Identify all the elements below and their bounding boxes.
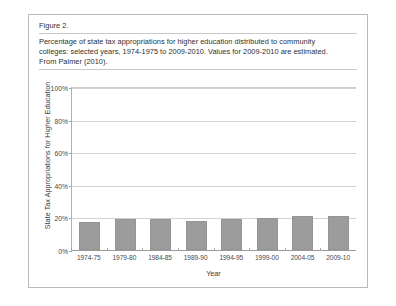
figure-number: Figure 2.	[39, 21, 357, 31]
bar-slot	[108, 88, 144, 250]
x-tick: 2009-10	[320, 251, 356, 261]
bar[interactable]	[328, 216, 349, 250]
bar-slot	[143, 88, 179, 250]
bar-series	[72, 88, 356, 250]
x-tick-mark	[285, 248, 286, 251]
x-tick-mark	[178, 248, 179, 251]
y-tick-label: 20%	[54, 215, 68, 222]
x-tick: 1979-80	[107, 251, 143, 261]
bar-slot	[285, 88, 321, 250]
x-tick-label: 1984-85	[142, 254, 178, 261]
x-tick-label: 1974-75	[71, 254, 107, 261]
x-tick-label: 1999-00	[249, 254, 285, 261]
x-tick: 1999-00	[249, 251, 285, 261]
caption-text: Percentage of state tax appropriations f…	[39, 37, 357, 68]
y-tick-label: 100%	[51, 85, 68, 92]
bar-slot	[179, 88, 215, 250]
x-tick: 1984-85	[142, 251, 178, 261]
x-tick-mark	[214, 248, 215, 251]
caption-divider-top	[39, 33, 357, 34]
y-tick-label: 80%	[54, 117, 68, 124]
plot-frame: 0%20%40%60%80%100%	[71, 87, 356, 251]
x-tick-label: 2009-10	[320, 254, 356, 261]
bar[interactable]	[115, 219, 136, 250]
plot-area: 0%20%40%60%80%100%	[71, 87, 356, 251]
x-tick-label: 2004-05	[285, 254, 321, 261]
x-tick: 1989-90	[178, 251, 214, 261]
figure-caption: Figure 2. Percentage of state tax approp…	[39, 21, 357, 68]
x-tick-label: 1989-90	[178, 254, 214, 261]
x-tick-mark	[142, 248, 143, 251]
y-tick-label: 0%	[58, 248, 68, 255]
bar[interactable]	[186, 221, 207, 250]
caption-divider-bottom	[39, 69, 357, 70]
bar[interactable]	[257, 218, 278, 250]
bar-slot	[250, 88, 286, 250]
x-tick: 2004-05	[285, 251, 321, 261]
caption-line-1: Percentage of state tax appropriations f…	[39, 37, 357, 47]
bar[interactable]	[79, 222, 100, 250]
x-axis-ticks: 1974-751979-801984-851989-901994-951999-…	[71, 251, 356, 261]
figure-container: Figure 2. Percentage of state tax approp…	[28, 14, 368, 288]
x-tick-mark	[71, 248, 72, 251]
x-tick-mark	[249, 248, 250, 251]
caption-line-3: From Palmer (2010).	[39, 57, 357, 67]
bar[interactable]	[292, 216, 313, 250]
bar-slot	[321, 88, 357, 250]
x-axis-title: Year	[71, 269, 356, 278]
bar-chart: State Tax Appropriations for Higher Educ…	[29, 73, 367, 287]
bar-slot	[72, 88, 108, 250]
y-tick-label: 60%	[54, 150, 68, 157]
bar[interactable]	[221, 219, 242, 250]
bar-slot	[214, 88, 250, 250]
x-tick-mark	[320, 248, 321, 251]
x-tick: 1994-95	[214, 251, 250, 261]
y-tick-label: 40%	[54, 182, 68, 189]
bar[interactable]	[150, 219, 171, 250]
caption-line-2: colleges: selected years, 1974-1975 to 2…	[39, 47, 357, 57]
y-axis-title: State Tax Appropriations for Higher Educ…	[43, 76, 52, 236]
x-tick-mark	[107, 248, 108, 251]
x-tick: 1974-75	[71, 251, 107, 261]
x-tick-label: 1979-80	[107, 254, 143, 261]
x-tick-label: 1994-95	[214, 254, 250, 261]
